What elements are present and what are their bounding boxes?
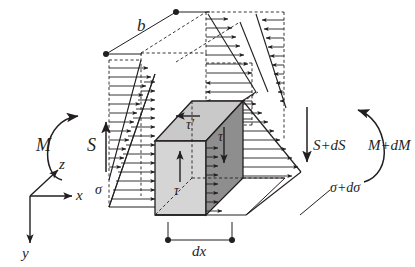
upper-left-dashed-box <box>109 60 141 207</box>
label-stress-left: σ <box>95 183 102 197</box>
dimension-b-dot-end <box>173 9 179 15</box>
label-tau-prime: τ′ <box>186 118 194 132</box>
label-shear-right: S+dS <box>313 138 346 153</box>
label-axis-z: z <box>59 157 65 172</box>
dimension-b <box>103 9 210 57</box>
axes-triad <box>30 170 72 243</box>
sigma-right-leader <box>300 190 330 215</box>
dimension-b-dot-start <box>103 51 109 57</box>
diagram-svg <box>0 0 415 267</box>
label-shear-left: S <box>87 136 96 154</box>
label-moment-left: M <box>36 136 51 154</box>
dimension-dx <box>165 222 235 243</box>
label-width-b: b <box>137 17 146 34</box>
label-stress-right: σ+dσ <box>330 181 360 195</box>
axis-z-arrow <box>30 170 58 196</box>
figure-canvas: b M S S+dS M+dM σ σ+dσ τ′ τ τ dx x y z <box>0 0 415 267</box>
label-axis-y: y <box>22 246 29 261</box>
label-length-dx: dx <box>192 244 206 259</box>
label-tau-right: τ <box>218 130 223 144</box>
label-moment-right: M+dM <box>368 138 411 153</box>
stress-distribution-right-upper <box>256 14 286 108</box>
label-axis-x: x <box>76 188 83 203</box>
label-tau-front: τ <box>174 184 179 198</box>
stress-distribution-upper-left <box>109 60 151 180</box>
